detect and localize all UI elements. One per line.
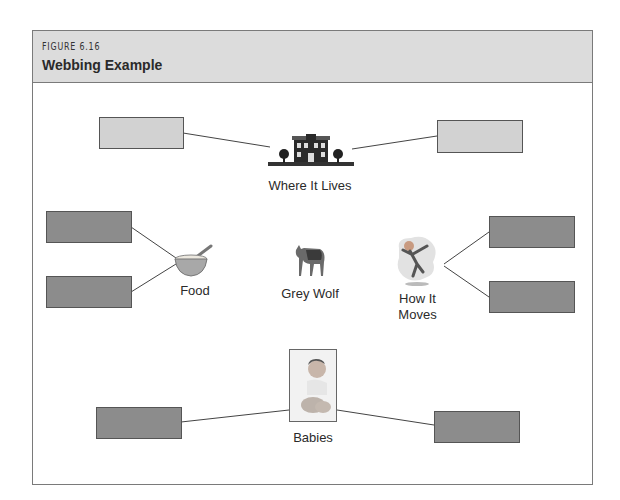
how-it-moves-label-line1: How It [390, 291, 445, 307]
running-child-icon [393, 234, 441, 288]
food-box-top[interactable] [46, 211, 132, 243]
center-topic-label: Grey Wolf [270, 286, 350, 302]
where-it-lives-box-left[interactable] [99, 117, 184, 149]
baby-photo-icon [289, 349, 337, 422]
babies-label: Babies [283, 430, 343, 446]
babies-box-right[interactable] [434, 411, 520, 443]
where-it-lives-label: Where It Lives [255, 178, 365, 194]
food-box-bottom[interactable] [46, 276, 132, 308]
how-it-moves-label-line2: Moves [390, 307, 445, 323]
how-it-moves-box-bottom[interactable] [489, 281, 575, 313]
where-it-lives-box-right[interactable] [437, 120, 523, 153]
food-label: Food [170, 283, 220, 299]
wolf-icon [290, 240, 330, 280]
babies-box-left[interactable] [96, 407, 182, 439]
bowl-icon [173, 242, 215, 278]
how-it-moves-box-top[interactable] [489, 216, 575, 248]
house-icon [268, 133, 354, 169]
